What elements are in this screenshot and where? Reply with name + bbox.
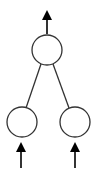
nodes [7, 35, 90, 137]
right-input-arrow-icon [70, 142, 80, 168]
arrows [16, 10, 80, 168]
node-left-child [7, 107, 37, 137]
node-right-child [60, 107, 90, 137]
tree-diagram [0, 0, 97, 172]
node-root [32, 35, 62, 65]
left-input-arrow-icon [16, 142, 26, 168]
edge-root-right-child [53, 64, 69, 108]
edge-root-left-child [26, 64, 41, 108]
output-arrow-icon [42, 10, 52, 34]
edges [26, 64, 69, 108]
